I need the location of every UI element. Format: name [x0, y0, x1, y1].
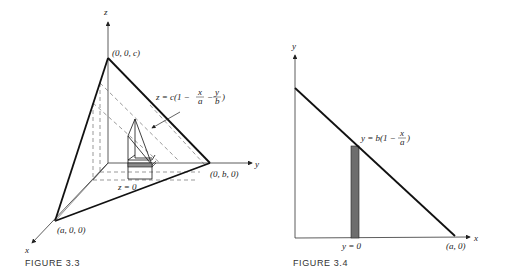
z-axis-label: z	[103, 7, 108, 17]
plane-equation: z = c(1 − x a − y b )	[155, 87, 225, 106]
y-axis-label: y	[254, 159, 259, 169]
x-intercept-label: (a, 0, 0)	[57, 225, 86, 235]
x-axis	[295, 237, 470, 238]
svg-text:): )	[406, 133, 410, 143]
boundary-line	[295, 88, 455, 236]
svg-text:z = c(1 −: z = c(1 −	[155, 92, 190, 102]
svg-text:): )	[221, 92, 225, 102]
volume-element-column	[128, 119, 155, 179]
svg-text:−: −	[207, 92, 213, 102]
y-axis-label: y	[291, 41, 296, 51]
volume-element-slab	[128, 163, 152, 167]
base-label: z = 0	[117, 182, 137, 192]
x-axis-label: x	[24, 245, 29, 255]
svg-text:y = b(1 −: y = b(1 −	[360, 133, 396, 143]
figures-canvas: z y x (0, 0, c) (0, b, 0) (a, 0, 0) z = …	[0, 0, 505, 280]
line-equation: y = b(1 − x a )	[360, 128, 410, 147]
x-axis-label: x	[473, 233, 478, 243]
figure-3-3-caption: FIGURE 3.3	[25, 258, 80, 268]
figure-3-4-caption: FIGURE 3.4	[293, 258, 348, 268]
plane-pointer-arrow	[152, 112, 180, 128]
svg-text:a: a	[198, 96, 203, 106]
y-intercept-label: (0, b, 0)	[210, 169, 239, 179]
strip-label: y = 0	[341, 241, 362, 251]
apex-label: (0, 0, c)	[112, 48, 140, 58]
x-intercept-label: (a, 0)	[446, 241, 466, 251]
tetrahedron-edges	[55, 58, 210, 221]
svg-text:a: a	[400, 137, 405, 147]
figure-3-4: y x y = b(1 − x a ) (a, 0) y = 0 FIGURE …	[291, 41, 478, 268]
svg-text:b: b	[215, 96, 220, 106]
integration-strip	[351, 146, 359, 238]
figure-3-3: z y x (0, 0, c) (0, b, 0) (a, 0, 0) z = …	[24, 7, 259, 268]
